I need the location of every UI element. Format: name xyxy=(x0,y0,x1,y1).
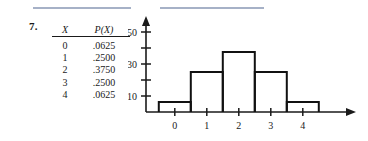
x-axis-arrowhead xyxy=(346,108,356,116)
cell-probability: .3750 xyxy=(78,64,130,76)
cell-probability: .0625 xyxy=(78,88,130,100)
top-rule-right xyxy=(160,7,264,9)
cell-probability: .0625 xyxy=(78,37,130,52)
column-header-p-of-x: P(X) xyxy=(78,24,130,37)
cell-x: 2 xyxy=(52,64,78,76)
x-axis-tick-label: 0 xyxy=(172,120,177,131)
histogram-bar xyxy=(223,52,255,112)
top-rule-left xyxy=(33,7,131,9)
cell-x: 3 xyxy=(52,76,78,88)
cell-probability: .2500 xyxy=(78,76,130,88)
y-axis-arrowhead xyxy=(142,16,150,26)
table-row: 4.0625 xyxy=(52,88,130,100)
table-row: 2.3750 xyxy=(52,64,130,76)
cell-x: 4 xyxy=(52,88,78,100)
y-axis-tick-label: .50 xyxy=(128,27,137,38)
table-header-row: X P(X) xyxy=(52,24,130,37)
y-axis-tick-labels: .50.30.10 xyxy=(128,27,137,102)
x-axis-tick-label: 3 xyxy=(268,120,273,131)
histogram-bar xyxy=(191,72,223,112)
probability-histogram: .50.30.10 01234 xyxy=(128,14,364,141)
x-axis-tick-labels: 01234 xyxy=(172,120,305,131)
table-row: 1.2500 xyxy=(52,52,130,64)
cell-probability: .2500 xyxy=(78,52,130,64)
table-row: 3.2500 xyxy=(52,76,130,88)
y-axis-tick-label: .10 xyxy=(128,91,137,102)
histogram-bar xyxy=(255,72,287,112)
problem-number: 7. xyxy=(29,20,38,32)
histogram-bars xyxy=(159,52,319,112)
x-axis-tick-label: 1 xyxy=(204,120,209,131)
probability-distribution-table: X P(X) 0.06251.25002.37503.25004.0625 xyxy=(52,24,132,101)
cell-x: 1 xyxy=(52,52,78,64)
x-axis-tick-label: 2 xyxy=(236,120,241,131)
column-header-x: X xyxy=(52,24,78,37)
cell-x: 0 xyxy=(52,37,78,52)
x-axis-tick-label: 4 xyxy=(300,120,305,131)
y-axis-tick-label: .30 xyxy=(128,59,137,70)
worksheet-figure: 7. X P(X) 0.06251.25002.37503.25004.0625 xyxy=(0,0,368,141)
table-row: 0.0625 xyxy=(52,37,130,52)
